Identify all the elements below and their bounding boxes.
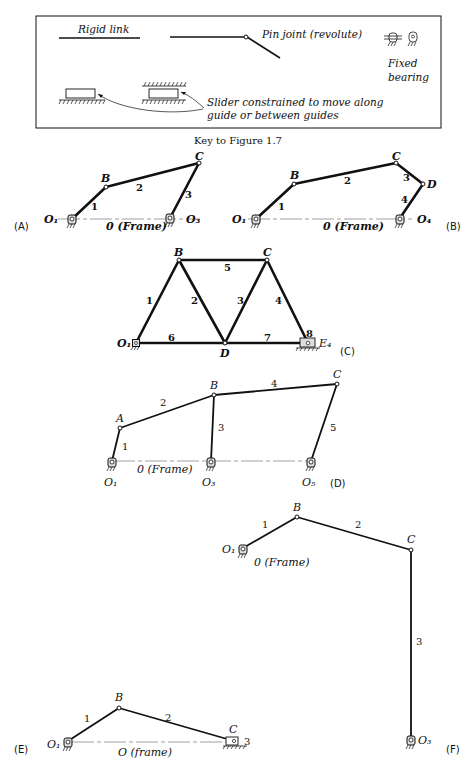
figure-f-four-bar: O₁ B C O₃ 1 2 3 0 (Frame) (F) xyxy=(222,501,460,755)
figure-c-truss: O₁ B C D E₄ 1 2 3 4 5 6 7 8 (C) xyxy=(117,246,355,360)
figure-e-slider-crank: O₁ B C 1 2 3 O (frame) (E) xyxy=(14,691,250,759)
pin-joint-icon xyxy=(335,382,339,386)
link-2 xyxy=(120,395,214,428)
point-label-o3: O₃ xyxy=(202,476,215,489)
fixed-bearing-icon xyxy=(238,545,247,558)
link-1 xyxy=(243,517,297,548)
link-1 xyxy=(136,260,179,343)
figure-tag-c: (C) xyxy=(340,346,355,357)
link-label-8: 8 xyxy=(306,328,313,339)
link-1 xyxy=(72,187,106,219)
fixed-bearing-icon xyxy=(107,458,116,471)
link-label-1: 1 xyxy=(91,201,98,212)
point-label-d: D xyxy=(219,347,230,360)
pin-joint-icon xyxy=(409,548,413,552)
link-label-7: 7 xyxy=(264,332,271,343)
pin-joint-icon xyxy=(212,393,216,397)
fixed-bearing-icon-crossed xyxy=(384,33,402,46)
pin-joint-icon xyxy=(295,515,299,519)
link-label-1: 1 xyxy=(278,201,285,212)
link-label-5: 5 xyxy=(224,262,231,273)
link-label-3: 3 xyxy=(403,172,410,183)
fixed-bearing-icon xyxy=(206,458,215,471)
fixed-bearing-label-1: Fixed xyxy=(387,57,418,69)
link-label-5: 5 xyxy=(330,422,336,433)
point-label-e4: E₄ xyxy=(318,337,331,350)
link-3 xyxy=(211,395,214,461)
link-2 xyxy=(179,260,225,343)
figure-b-five-bar: O₁ B C D O₄ 1 2 3 4 0 (Frame) (B) xyxy=(232,150,461,233)
link-4 xyxy=(267,260,308,343)
point-label-d: D xyxy=(426,178,437,191)
frame-label: 0 (Frame) xyxy=(323,220,384,233)
point-label-o1: O₁ xyxy=(47,738,60,751)
link-label-2: 2 xyxy=(160,397,166,408)
slider-between-guides-icon xyxy=(142,82,186,104)
link-label-1: 1 xyxy=(146,295,153,306)
point-label-a: A xyxy=(115,412,124,425)
figure-tag-d: (D) xyxy=(330,478,346,489)
link-label-2: 2 xyxy=(355,519,361,530)
frame-label: 0 (Frame) xyxy=(137,463,192,476)
point-label-o4: O₄ xyxy=(417,213,432,226)
pin-joint-icon xyxy=(118,426,122,430)
key-caption: Key to Figure 1.7 xyxy=(194,135,282,146)
point-label-c: C xyxy=(229,723,238,736)
pin-joint-link-b xyxy=(247,37,280,58)
link-2 xyxy=(106,163,199,187)
link-label-6: 6 xyxy=(168,332,175,343)
link-2 xyxy=(297,517,411,550)
link-1 xyxy=(68,708,119,741)
fixed-bearing-icon xyxy=(306,458,315,471)
pin-joint-icon xyxy=(223,341,227,345)
slider-label-1: Slider constrained to move along xyxy=(207,96,384,108)
point-label-o1: O₁ xyxy=(117,337,131,350)
link-label-4: 4 xyxy=(271,378,277,389)
point-label-o1: O₁ xyxy=(104,476,117,489)
point-label-b: B xyxy=(114,691,123,704)
link-label-3: 3 xyxy=(237,295,244,306)
point-label-b: B xyxy=(209,379,218,392)
pin-joint-icon xyxy=(244,35,248,39)
point-label-c: C xyxy=(407,533,416,546)
pin-joint-label: Pin joint (revolute) xyxy=(261,28,362,40)
point-label-c: C xyxy=(392,150,401,163)
pin-joint-icon xyxy=(421,182,425,186)
fixed-bearing-icon xyxy=(395,215,404,228)
link-label-3: 3 xyxy=(185,189,192,200)
link-1 xyxy=(256,184,294,219)
point-label-c: C xyxy=(195,150,204,163)
pin-joint-icon xyxy=(104,185,108,189)
arrow-head-icon xyxy=(181,92,186,95)
point-label-o1: O₁ xyxy=(44,213,58,226)
link-label-1: 1 xyxy=(262,519,268,530)
point-label-b: B xyxy=(292,501,301,514)
link-label-3: 3 xyxy=(244,736,250,747)
link-label-3: 3 xyxy=(416,636,422,647)
link-3 xyxy=(225,260,267,343)
figure-1-7-canvas: Rigid link Pin joint (revolute) Fixed be… xyxy=(0,0,476,762)
fixed-bearing-icon xyxy=(251,215,260,228)
arrow-head-icon xyxy=(98,94,103,98)
key-legend: Rigid link Pin joint (revolute) Fixed be… xyxy=(36,16,441,128)
link-label-2: 2 xyxy=(344,175,351,186)
fixed-bearing-icon xyxy=(63,738,72,751)
fixed-bearing-icon xyxy=(131,340,140,351)
link-label-1: 1 xyxy=(84,713,90,724)
point-label-b: B xyxy=(100,172,110,185)
link-label-4: 4 xyxy=(401,194,408,205)
point-label-o1: O₁ xyxy=(232,213,246,226)
link-label-2: 2 xyxy=(165,712,171,723)
point-label-o1: O₁ xyxy=(222,543,235,556)
point-label-c: C xyxy=(263,246,272,259)
fixed-bearing-icon xyxy=(67,215,76,228)
slider-on-guide-icon xyxy=(59,89,105,104)
pin-joint-icon xyxy=(292,182,296,186)
link-label-3: 3 xyxy=(218,422,224,433)
figure-d-six-bar: A B C O₁ O₃ O₅ 1 2 3 4 5 0 (Frame) (D) xyxy=(104,368,346,489)
frame-label: O (frame) xyxy=(118,746,172,759)
slider-8-icon xyxy=(296,338,320,351)
link-label-2: 2 xyxy=(136,182,143,193)
link-label-2: 2 xyxy=(191,295,198,306)
frame-label: 0 (Frame) xyxy=(106,220,167,233)
